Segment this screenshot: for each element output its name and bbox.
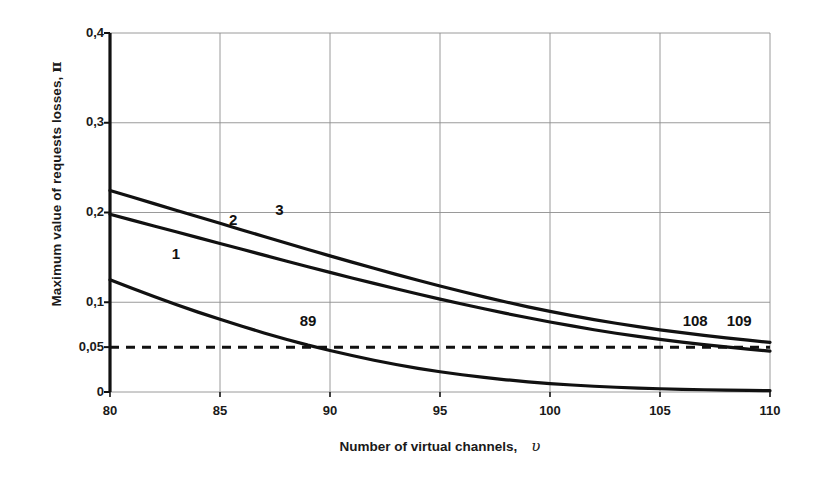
plot-area: 12389108109 xyxy=(0,0,815,477)
annotation-2: 2 xyxy=(229,211,237,228)
annotation-109: 109 xyxy=(727,312,752,329)
annotation-1: 1 xyxy=(172,245,180,262)
chart-figure: Maximum value of requests losses,π 0,4 0… xyxy=(0,0,815,477)
annotations: 12389108109 xyxy=(172,201,752,329)
annotation-89: 89 xyxy=(300,312,317,329)
grid-lines xyxy=(110,33,770,392)
axis-frame xyxy=(104,33,770,397)
annotation-3: 3 xyxy=(275,201,283,218)
annotation-108: 108 xyxy=(683,312,708,329)
